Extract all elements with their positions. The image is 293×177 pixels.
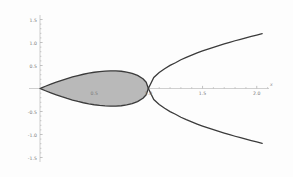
plot-canvas: 0.51.01.52.0 -1.5-1.0-0.50.51.01.5 x	[0, 0, 293, 177]
shaded-loop-region	[40, 71, 148, 106]
y-tick-label: -1.5	[28, 155, 37, 160]
y-tick-label: 1.5	[29, 17, 37, 22]
lower-branch-curve	[148, 89, 262, 144]
x-tick-label: 0.5	[90, 91, 98, 96]
y-tick-label: 1.0	[29, 40, 37, 45]
y-tick-label: 0.5	[29, 63, 37, 68]
x-tick-label: 2.0	[253, 91, 261, 96]
x-axis-label: x	[270, 82, 273, 87]
curve-plot-svg	[0, 0, 293, 177]
y-tick-label: -0.5	[28, 109, 37, 114]
x-tick-label: 1.5	[199, 91, 207, 96]
upper-branch-curve	[148, 34, 262, 89]
x-tick-label: 1.0	[145, 91, 153, 96]
y-tick-label: -1.0	[28, 132, 37, 137]
